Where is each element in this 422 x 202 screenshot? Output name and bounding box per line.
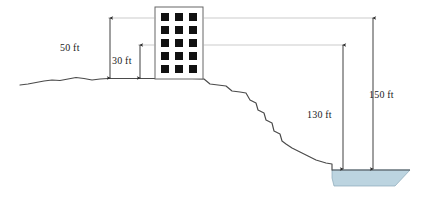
extension-lines — [108, 18, 375, 45]
diagram-canvas — [0, 0, 422, 202]
river-water-fill — [332, 170, 410, 186]
dimension-label-130ft: 130 ft — [307, 109, 332, 120]
apartment-building — [155, 7, 203, 79]
window — [189, 13, 197, 21]
window — [189, 52, 197, 60]
window — [175, 52, 183, 60]
river-water — [332, 170, 410, 186]
window — [161, 13, 169, 21]
dimension-label-150ft: 150 ft — [369, 89, 394, 100]
dimension-label-30ft: 30 ft — [112, 55, 132, 66]
window — [189, 39, 197, 47]
window — [161, 52, 169, 60]
dimension-arrows — [110, 18, 373, 169]
window — [189, 65, 197, 73]
window — [175, 65, 183, 73]
window — [175, 13, 183, 21]
cliff-building-diagram: 50 ft 30 ft 130 ft 150 ft — [0, 0, 422, 202]
window — [175, 26, 183, 34]
window — [189, 26, 197, 34]
window — [161, 65, 169, 73]
window — [175, 39, 183, 47]
window — [161, 39, 169, 47]
terrain-profile-line — [20, 78, 332, 171]
ground-terrain — [20, 78, 410, 171]
dimension-label-50ft: 50 ft — [60, 42, 80, 53]
window — [161, 26, 169, 34]
